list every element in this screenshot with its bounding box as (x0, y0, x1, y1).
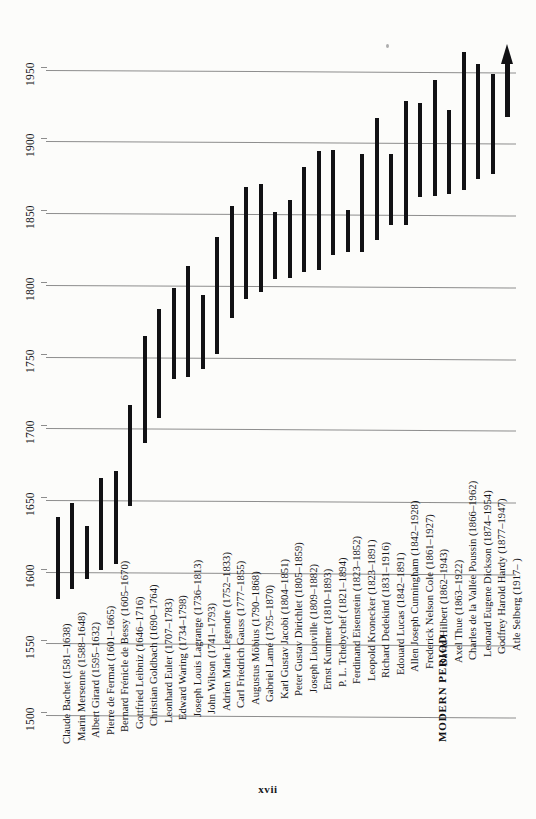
lifespan-bar (244, 187, 248, 299)
axis-tick-1900 (41, 138, 47, 139)
axis-tick-1950 (41, 67, 47, 68)
axis-tick-1550 (41, 640, 47, 641)
year-label-1900: 1900 (24, 134, 36, 158)
person-label: Ferdinand Eisenstein (1823–1852) (351, 536, 362, 684)
person-label: Marin Mersenne (1588–1648) (76, 612, 87, 741)
lifespan-bar (99, 478, 103, 570)
lifespan-bar (273, 212, 277, 279)
lifespan-bar (302, 167, 306, 272)
lifespan-bar (375, 118, 379, 240)
person-label: Carl Friedrich Gauss (1777–1855) (235, 561, 246, 708)
person-label: P. L. Tchebychef (1821–1894) (337, 557, 348, 687)
person-label: Peter Gustav Dirichlet (1805–1859) (293, 542, 304, 696)
arrow-head-icon (501, 44, 513, 64)
year-label-1750: 1750 (24, 349, 36, 373)
person-label: Christian Goldbach (1690–1764) (148, 584, 159, 726)
page-number: xvii (0, 783, 536, 795)
lifespan-bar (404, 101, 408, 224)
person-label: Joseph Louis Lagrange (1736–1813) (192, 560, 203, 717)
lifespan-bar (317, 151, 321, 270)
axis-tick-1500 (41, 712, 47, 713)
lifespan-bar (259, 184, 263, 292)
axis-tick-1850 (41, 210, 47, 211)
lifespan-bar (447, 110, 451, 195)
book-page: 1500155016001650170017501800185019001950… (0, 0, 536, 819)
year-label-1500: 1500 (24, 707, 36, 731)
axis-tick-1700 (41, 425, 47, 426)
lifespan-bar (346, 210, 350, 252)
year-label-1950: 1950 (24, 62, 36, 86)
lifespan-bar (476, 64, 480, 179)
lifespan-bar (433, 80, 437, 196)
person-label: Claude Bachet (1581–1638) (61, 623, 72, 744)
person-label: Ernst Kummer (1810–1893) (322, 569, 333, 690)
timeline-chart: 1500155016001650170017501800185019001950… (0, 0, 536, 770)
lifespan-bar (331, 150, 335, 255)
arrow-shaft (505, 62, 510, 117)
gridline-1850 (46, 213, 516, 216)
lifespan-bar (143, 336, 147, 442)
person-label: Allen Joseph Cunningham (1842–1928) (409, 500, 420, 672)
year-label-1600: 1600 (24, 564, 36, 588)
lifespan-bar (56, 517, 60, 599)
year-label-1550: 1550 (24, 635, 36, 659)
person-label: Godfrey Harold Hardy (1877–1947) (496, 499, 507, 654)
year-label-1850: 1850 (24, 205, 36, 229)
lifespan-bar (85, 526, 89, 579)
lifespan-bar (128, 405, 132, 505)
person-label: Atle Selberg (1917– ) (511, 558, 522, 651)
person-label: Edouard Lucas (1842–1891) (395, 553, 406, 675)
person-label: Richard Dedekind (1831–1916) (380, 542, 391, 678)
lifespan-bar (201, 295, 205, 370)
person-label: Gabriel Lamé (1795–1870) (264, 585, 275, 702)
section-label-modern-period: MODERN PERIOD (436, 635, 448, 742)
person-label: Charles de la Vallée Poussin (1866–1962) (467, 481, 478, 660)
person-label: Axel Thue (1863–1922) (453, 560, 464, 663)
person-label: Edward Waring (1734–1798) (177, 595, 188, 720)
person-label: Leonard Eugene Dickson (1874–1954) (482, 490, 493, 657)
gridline-1950 (46, 70, 516, 73)
person-label: Joseph Liouville (1809–1882) (308, 564, 319, 693)
year-label-1700: 1700 (24, 420, 36, 444)
lifespan-bar (114, 471, 118, 564)
person-label: Bernard Frénicle de Bessy (1605–1670) (119, 561, 130, 732)
person-label: Gottfried Leibniz (1646–1716) (134, 596, 145, 729)
axis-tick-1650 (41, 497, 47, 498)
paper-speck (386, 44, 389, 48)
lifespan-bar (389, 154, 393, 224)
person-label: Augustus Möbius (1790–1868) (250, 571, 261, 705)
lifespan-bar (70, 503, 74, 589)
lifespan-bar (360, 154, 364, 252)
gridline-1900 (46, 141, 516, 144)
axis-tick-1800 (41, 282, 47, 283)
person-label: John Wilson (1741–1793) (206, 603, 217, 714)
lifespan-bar (157, 309, 161, 418)
lifespan-bar (491, 74, 495, 174)
year-label-1800: 1800 (24, 277, 36, 301)
axis-tick-1750 (41, 354, 47, 355)
lifespan-bar (172, 288, 176, 380)
person-label: Karl Gustav Jacobi (1804–1851) (279, 559, 290, 699)
person-label: Albert Girard (1595–1632) (90, 622, 101, 738)
axis-tick-1600 (41, 569, 47, 570)
lifespan-bar (186, 266, 190, 376)
gridline-1750 (46, 357, 516, 360)
person-label: Pierre de Fermat (1601–1665) (105, 606, 116, 735)
lifespan-bar (418, 103, 422, 198)
gridline-1800 (46, 285, 516, 288)
person-label: Frederick Nelson Cole (1861–1927) (424, 514, 435, 669)
person-label: Leonhard Euler (1707–1783) (163, 598, 174, 723)
person-label: Leopold Kronecker (1823–1891) (366, 540, 377, 681)
lifespan-bar (215, 237, 219, 353)
person-label: Adrien Marie Legendre (1752–1833) (221, 552, 232, 711)
lifespan-bar (230, 206, 234, 318)
lifespan-bar (462, 52, 466, 190)
year-label-1650: 1650 (24, 492, 36, 516)
gridline-1700 (46, 428, 516, 431)
lifespan-bar (288, 200, 292, 277)
